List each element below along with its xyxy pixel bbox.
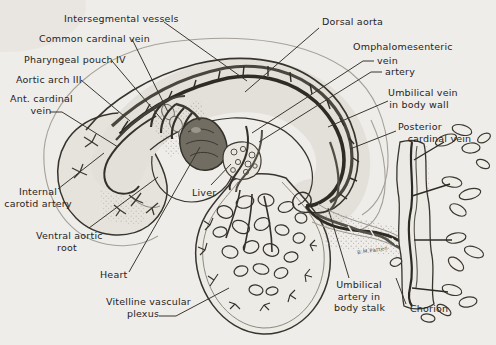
label-common-cardinal-vein: Common cardinal vein bbox=[39, 33, 150, 45]
label-chorion: Chorion bbox=[410, 303, 448, 315]
figure-canvas: Intersegmental vessels Common cardinal v… bbox=[0, 0, 496, 345]
label-umbilical-vein: Umbilical vein in body wall bbox=[388, 87, 450, 110]
label-posterior-cardinal: Posterior cardinal vein bbox=[398, 121, 471, 144]
label-dorsal-aorta: Dorsal aorta bbox=[322, 16, 383, 28]
label-intersegmental-vessels: Intersegmental vessels bbox=[64, 13, 179, 25]
label-omphalomesenteric-artery: artery bbox=[385, 66, 415, 78]
label-umbilical-artery: Umbilical artery in body stalk bbox=[334, 279, 384, 314]
label-omphalomesenteric-vein: vein bbox=[377, 55, 398, 67]
label-omphalomesenteric: Omphalomesenteric bbox=[353, 41, 453, 53]
label-vitelline-plexus: Vitelline vascular plexus bbox=[106, 296, 180, 319]
label-liver: Liver bbox=[192, 187, 216, 199]
label-heart: Heart bbox=[100, 269, 127, 281]
label-internal-carotid: Internal carotid artery bbox=[4, 186, 72, 209]
label-aortic-arch: Aortic arch III bbox=[16, 74, 82, 86]
label-ventral-aortic-root: Ventral aortic root bbox=[36, 230, 98, 253]
label-pharyngeal-pouch: Pharyngeal pouch IV bbox=[24, 54, 126, 66]
label-ant-cardinal-vein: Ant. cardinal vein bbox=[10, 93, 72, 116]
